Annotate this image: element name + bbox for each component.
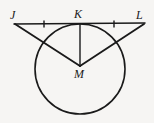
geometry-figure: J K L M [0, 0, 154, 123]
point-label-J: J [10, 9, 15, 21]
segment-JM [15, 24, 80, 66]
point-label-K: K [74, 8, 82, 20]
segment-LM [80, 24, 144, 66]
point-label-L: L [136, 9, 143, 21]
point-label-M: M [74, 68, 84, 80]
